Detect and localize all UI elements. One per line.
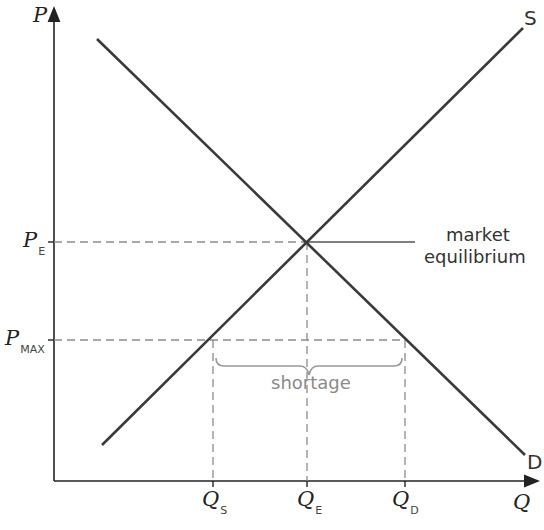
pe-label: PE (23, 228, 44, 252)
qs-label: QS (202, 487, 226, 511)
shortage-label: shortage (271, 372, 351, 393)
x-axis-label: Q (513, 490, 530, 514)
pmax-label: PMAX (5, 326, 44, 350)
y-axis-label: P (33, 3, 47, 27)
qe-label: QE (297, 487, 321, 511)
demand-label: D (527, 450, 542, 474)
qd-label: QD (392, 487, 418, 511)
market-equilibrium-label: market equilibrium (424, 224, 526, 268)
supply-label: S (524, 6, 537, 30)
